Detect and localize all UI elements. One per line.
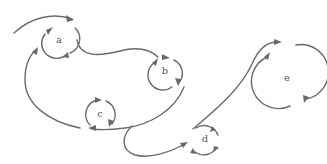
arrowhead-icon bbox=[66, 15, 74, 22]
arrowhead-icon bbox=[190, 148, 196, 154]
arrowhead-icon bbox=[180, 142, 188, 148]
loop-label-c: c bbox=[97, 109, 103, 119]
path-b-to-c bbox=[92, 87, 184, 130]
diagram-canvas bbox=[0, 0, 327, 164]
loop-label-e: e bbox=[284, 73, 290, 83]
loop-label-b: b bbox=[162, 66, 168, 76]
loop-b-arc bbox=[148, 63, 172, 90]
arrowhead-icon bbox=[95, 97, 102, 103]
loop-label-d: d bbox=[202, 134, 208, 144]
path-d-to-e bbox=[193, 42, 275, 129]
arrowhead-icon bbox=[213, 146, 219, 152]
arrowhead-icon bbox=[88, 125, 96, 131]
path-loop-diagram: a b c d e bbox=[0, 0, 327, 164]
loop-label-a: a bbox=[56, 35, 62, 45]
path-c-to-a bbox=[25, 50, 80, 128]
loop-e-arc bbox=[296, 45, 327, 99]
path-c-to-d bbox=[124, 126, 183, 156]
loop-c-arc bbox=[86, 100, 97, 125]
arrowhead-icon bbox=[162, 54, 170, 60]
arrowhead-icon bbox=[62, 52, 69, 58]
entry-path bbox=[14, 16, 72, 33]
arrowhead-icon bbox=[46, 27, 53, 35]
arrowhead-icon bbox=[274, 39, 282, 45]
path-a-to-b bbox=[77, 40, 158, 57]
loop-a-arc bbox=[70, 28, 80, 53]
